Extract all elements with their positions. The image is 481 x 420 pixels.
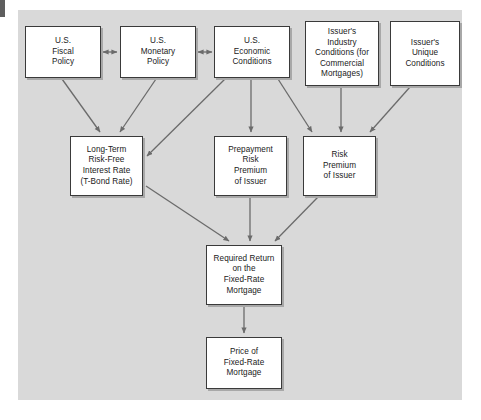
node-label: Prepayment Risk Premium of Issuer [226,145,275,187]
node-label: U.S. Monetary Policy [139,36,178,68]
node-label: Price of Fixed-Rate Mortgage [222,347,267,379]
node-us-fiscal-policy: U.S. Fiscal Policy [25,26,101,78]
node-issuers-industry-conditions: Issuer's Industry Conditions (for Commer… [305,21,379,86]
node-required-return-on-fixed-rate-mortgage: Required Return on the Fixed-Rate Mortga… [206,245,282,305]
node-prepayment-risk-premium-of-issuer: Prepayment Risk Premium of Issuer [214,136,287,196]
node-long-term-risk-free-interest-rate: Long-Term Risk-Free Interest Rate (T-Bon… [70,136,143,196]
figure-page: U.S. Fiscal Policy U.S. Monetary Policy … [0,0,481,420]
edge-monetary-longterm [120,79,156,132]
node-label: Issuer's Unique Conditions [403,38,446,70]
node-label: Issuer's Industry Conditions (for Commer… [313,27,371,80]
node-label: Long-Term Risk-Free Interest Rate (T-Bon… [78,145,134,187]
edge-unique-riskprem [370,87,410,132]
node-label: U.S. Economic Conditions [230,36,273,68]
node-us-monetary-policy: U.S. Monetary Policy [120,26,196,78]
edge-fiscal-longterm [62,79,100,132]
node-us-economic-conditions: U.S. Economic Conditions [214,26,290,78]
node-risk-premium-of-issuer: Risk Premium of Issuer [303,136,376,196]
edge-economic-riskprem [278,79,312,132]
node-label: Risk Premium of Issuer [321,150,358,182]
node-label: U.S. Fiscal Policy [50,36,76,68]
node-issuers-unique-conditions: Issuer's Unique Conditions [390,21,460,86]
edge-riskprem-required [275,197,318,241]
node-label: Required Return on the Fixed-Rate Mortga… [212,254,277,296]
node-price-of-fixed-rate-mortgage: Price of Fixed-Rate Mortgage [206,337,282,389]
